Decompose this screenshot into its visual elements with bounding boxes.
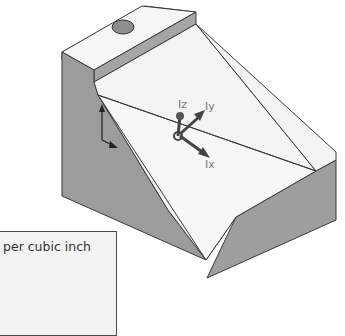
axis-label-x: Ix <box>205 158 215 171</box>
density-units-text: per cubic inch <box>3 239 91 254</box>
axis-label-y: Iy <box>205 100 215 113</box>
mass-properties-panel: per cubic inch <box>0 231 117 336</box>
axis-label-z: Iz <box>178 98 187 111</box>
hole[interactable] <box>112 20 134 34</box>
